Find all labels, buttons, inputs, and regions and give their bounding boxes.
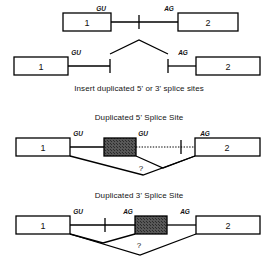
- site-label-gu-split: GU: [71, 49, 81, 56]
- splice-site-figure: 1 GU AG 2 1 GU AG 2 1 GU: [0, 0, 278, 268]
- splice-path-outer-dup5: [70, 156, 195, 175]
- splice-path-inner-dup3: [70, 234, 135, 243]
- site-label-ag-duplicate-dup3: AG: [122, 208, 133, 215]
- exon-label-1-dup5: 1: [40, 143, 45, 153]
- site-label-gu-dup3: GU: [73, 208, 83, 215]
- site-label-ag-original: AG: [163, 5, 174, 12]
- exon-label-1-split: 1: [38, 62, 43, 72]
- splice-path-outer-dup3: [70, 234, 196, 255]
- site-label-ag-dup3: AG: [179, 208, 190, 215]
- panel-split: 1 GU AG 2: [14, 40, 260, 75]
- exon-label-2-dup5: 2: [224, 143, 229, 153]
- site-label-ag-dup5: AG: [199, 130, 210, 137]
- panel-duplicated-5prime: 1 GU GU AG 2 ?: [16, 130, 260, 175]
- caption-duplicated-5-splice-site: Duplicated 5' Splice Site: [0, 113, 278, 122]
- figure-canvas: 1 GU AG 2 1 GU AG 2 1 GU: [0, 0, 278, 268]
- exon-label-2-dup3: 2: [225, 221, 230, 231]
- exon-label-1-dup3: 1: [40, 221, 45, 231]
- caption-duplicated-3-splice-site: Duplicated 3' Splice Site: [0, 191, 278, 200]
- exon-label-2-original: 2: [205, 18, 210, 28]
- panel-duplicated-3prime: 1 GU AG AG 2 ?: [16, 208, 260, 255]
- site-label-gu-dup5: GU: [73, 130, 83, 137]
- panel-original: 1 GU AG 2: [63, 5, 238, 31]
- exon-label-2-split: 2: [225, 62, 230, 72]
- insert-box-dup5: [104, 138, 136, 156]
- splice-question-label-dup3: ?: [137, 241, 142, 250]
- caption-insert-duplicated-sites: Insert duplicated 5' or 3' splice sites: [0, 84, 278, 93]
- site-label-gu-original: GU: [96, 5, 106, 12]
- chevron-connector: [110, 40, 168, 54]
- splice-question-label-dup5: ?: [139, 164, 144, 173]
- site-label-ag-split: AG: [177, 49, 188, 56]
- exon-label-1-original: 1: [84, 18, 89, 28]
- site-label-gu-duplicate-dup5: GU: [138, 130, 148, 137]
- insert-box-dup3: [135, 216, 167, 234]
